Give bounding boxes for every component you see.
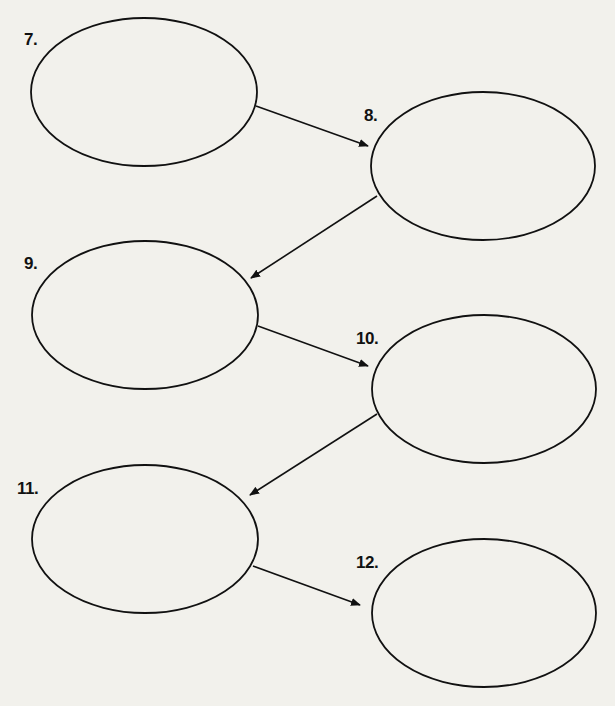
- arrow-7-to-8: [256, 106, 368, 146]
- arrow-10-to-11: [250, 414, 377, 495]
- item-number-label-11: 11.: [17, 480, 38, 497]
- arrow-9-to-10: [258, 326, 368, 366]
- item-number-label-9: 9.: [24, 255, 37, 272]
- sequence-diagram: 7.8.9.10.11.12.: [0, 0, 615, 706]
- diagram-canvas: [0, 0, 615, 706]
- item-number-label-7: 7.: [24, 31, 37, 48]
- item-number-label-12: 12.: [356, 554, 378, 571]
- arrow-11-to-12: [253, 566, 360, 605]
- arrows-group: [250, 106, 377, 605]
- answer-ellipse-10[interactable]: [372, 315, 596, 463]
- arrow-8-to-9: [251, 196, 377, 278]
- ellipses-group: [31, 18, 596, 687]
- answer-ellipse-11[interactable]: [32, 465, 258, 613]
- answer-ellipse-8[interactable]: [371, 92, 595, 240]
- answer-ellipse-9[interactable]: [32, 241, 258, 389]
- item-number-label-8: 8.: [364, 107, 377, 124]
- answer-ellipse-7[interactable]: [31, 18, 257, 166]
- answer-ellipse-12[interactable]: [372, 539, 596, 687]
- item-number-label-10: 10.: [356, 330, 378, 347]
